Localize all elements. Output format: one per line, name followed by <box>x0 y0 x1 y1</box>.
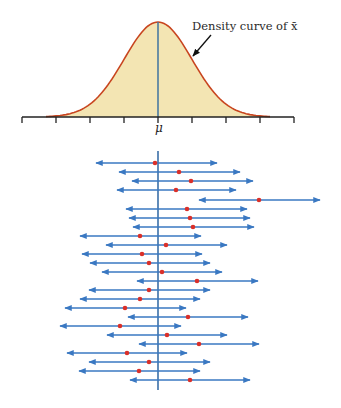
confidence-interval-figure: μ Density curve of x̄ <box>0 0 341 408</box>
interval-row <box>129 216 250 221</box>
annotation-arrow-icon <box>193 35 211 56</box>
sample-mean-dot <box>140 252 145 257</box>
interval-row <box>117 188 236 193</box>
interval-row <box>89 288 210 293</box>
sample-mean-dot <box>188 378 193 383</box>
interval-row <box>80 297 200 302</box>
sample-mean-dot <box>138 297 143 302</box>
sample-mean-dot <box>137 369 142 374</box>
interval-row <box>139 342 259 347</box>
sample-mean-dot <box>177 170 182 175</box>
sample-mean-dot <box>188 216 193 221</box>
interval-row <box>128 315 248 320</box>
interval-row <box>199 198 320 203</box>
interval-row <box>130 378 250 383</box>
sample-mean-dot <box>174 188 179 193</box>
sample-mean-dot <box>191 225 196 230</box>
interval-row <box>126 207 247 212</box>
sample-mean-dot <box>118 324 123 329</box>
interval-row <box>89 360 210 365</box>
sample-mean-dot <box>257 198 262 203</box>
sample-mean-dot <box>164 243 169 248</box>
sample-mean-dot <box>125 351 130 356</box>
sample-mean-dot <box>186 315 191 320</box>
sample-mean-dot <box>195 279 200 284</box>
sample-mean-dot <box>123 306 128 311</box>
interval-row <box>137 279 258 284</box>
sample-mean-dot <box>197 342 202 347</box>
interval-row <box>119 170 240 175</box>
interval-row <box>80 234 201 239</box>
sample-mean-dot <box>185 207 190 212</box>
interval-row <box>90 261 210 266</box>
interval-row <box>132 179 253 184</box>
sample-mean-dot <box>189 179 194 184</box>
interval-row <box>65 306 186 311</box>
sample-mean-dot <box>138 234 143 239</box>
density-curve-annotation: Density curve of x̄ <box>192 19 298 33</box>
sample-mean-dot <box>147 288 152 293</box>
sample-mean-dot <box>147 261 152 266</box>
interval-row <box>106 243 227 248</box>
interval-row <box>133 225 254 230</box>
interval-row <box>79 369 200 374</box>
sample-mean-dot <box>153 161 158 166</box>
sample-mean-dot <box>160 270 165 275</box>
sample-mean-dot <box>147 360 152 365</box>
confidence-intervals <box>60 161 320 383</box>
interval-row <box>82 252 202 257</box>
axis-label-mu: μ <box>155 121 163 135</box>
sample-mean-dot <box>165 333 170 338</box>
interval-row <box>102 270 222 275</box>
interval-row <box>67 351 187 356</box>
interval-row <box>60 324 181 329</box>
interval-row <box>107 333 227 338</box>
interval-row <box>96 161 217 166</box>
